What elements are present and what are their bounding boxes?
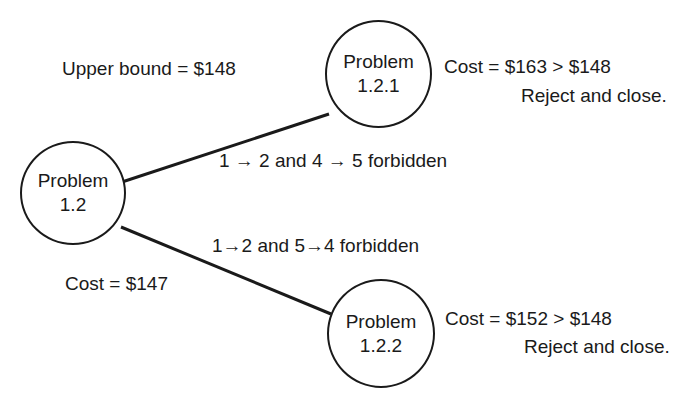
node-1-2-cost: Cost = $147 (65, 273, 168, 295)
node-1-2-1-cost: Cost = $163 > $148 (444, 56, 611, 78)
node-id: 1.2.2 (360, 334, 402, 358)
node-title: Problem (346, 310, 417, 334)
node-1-2-1-status: Reject and close. (521, 85, 667, 107)
node-title: Problem (38, 169, 109, 193)
edge-label-upper: 1 → 2 and 4 → 5 forbidden (219, 150, 447, 172)
node-problem-1-2-1: Problem 1.2.1 (325, 20, 432, 128)
node-title: Problem (343, 50, 414, 74)
node-1-2-2-cost: Cost = $152 > $148 (445, 308, 612, 330)
node-1-2-2-status: Reject and close. (524, 336, 670, 358)
upper-bound-label: Upper bound = $148 (62, 58, 236, 80)
edge-label-lower: 1→2 and 5→4 forbidden (212, 235, 419, 257)
node-id: 1.2 (60, 193, 86, 217)
node-problem-1-2: Problem 1.2 (20, 141, 126, 245)
node-id: 1.2.1 (357, 74, 399, 98)
node-problem-1-2-2: Problem 1.2.2 (327, 279, 435, 388)
